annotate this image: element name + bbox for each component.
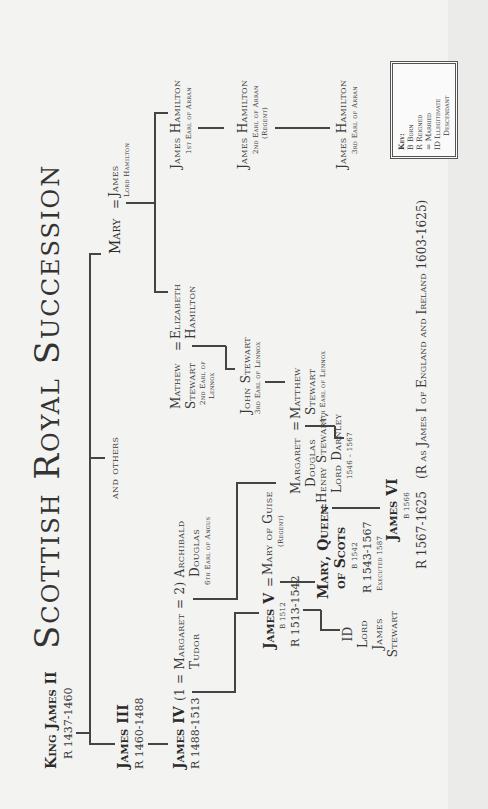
james-v-marriage-sign: = <box>264 577 276 587</box>
person-james-hamilton-2nd-earl: James Hamilton <box>237 80 249 169</box>
james-v-reign: R 1513-1542 <box>290 576 301 647</box>
person-james-ii: King James II <box>44 671 58 769</box>
elizabeth-hamilton-line2: Hamilton <box>185 285 197 339</box>
lord-james-stewart-line4: Stewart <box>387 609 399 659</box>
margaret-tudor-line2: Tudor <box>189 634 201 669</box>
key-illegitimate: ID Illegitimate <box>433 70 442 150</box>
connector <box>89 458 105 460</box>
person-mathew-stewart-2nd-earl: Mathew <box>170 363 182 409</box>
person-mary-queen-of-scots: Mary, Queen <box>316 506 330 599</box>
archibald-title: 6th Earl of Angus <box>205 517 212 585</box>
legend-key: Key: B Born R Reigned = Married ID Illeg… <box>390 61 458 159</box>
connector <box>89 744 115 746</box>
mary-of-guise-note: (Regent) <box>278 515 285 547</box>
connector <box>89 254 101 256</box>
mathew-marriage-sign: = <box>172 341 184 351</box>
key-label: Key: <box>397 70 406 150</box>
diagram-title: Scottish Royal Succession <box>30 164 64 649</box>
connector <box>154 113 168 115</box>
person-archibald-douglas: = 2) Archibald <box>174 520 186 609</box>
james-hamilton-2-note: (Regent) <box>262 107 269 139</box>
james-hamilton-3-title: 3rd Earl of Arran <box>352 86 359 154</box>
person-elizabeth-hamilton: Elizabeth <box>170 284 182 339</box>
person-lord-james-stewart: ID <box>342 609 354 659</box>
james-v-born: B 1512 <box>280 602 287 629</box>
connector <box>192 346 226 348</box>
james-lord-hamilton-title: Lord Hamilton <box>124 143 131 197</box>
person-john-stewart: John Stewart <box>240 337 252 414</box>
matthew-stewart-4-line2: Stewart <box>305 369 317 415</box>
james-ii-reign: R 1437-1460 <box>63 688 74 759</box>
person-james-lord-hamilton: James <box>108 165 120 197</box>
connector <box>280 582 315 584</box>
key-born: B Born <box>406 70 415 150</box>
connector <box>193 599 237 601</box>
connector <box>148 744 168 746</box>
connector <box>76 733 89 735</box>
darnley-dates: 1546 – 1567 <box>347 432 354 479</box>
trunk-line <box>89 254 91 745</box>
connector <box>154 113 156 293</box>
james-vi-born: B 1566 <box>404 492 411 519</box>
family-tree-diagram: Scottish Royal Succession Key: B Born R … <box>0 0 488 809</box>
person-james-hamilton-3rd-earl: James Hamilton <box>336 80 348 169</box>
connector <box>225 346 227 370</box>
james-iv-reign: R 1488-1513 <box>190 698 201 769</box>
connector <box>320 610 322 631</box>
connector <box>265 382 285 384</box>
john-stewart-title: 3rd Earl of Lennox <box>255 342 262 414</box>
connector <box>234 613 236 693</box>
connector <box>303 610 321 612</box>
connector <box>126 203 154 205</box>
person-mary: Mary <box>108 219 122 254</box>
mathew-stewart-line2: Stewart <box>185 363 197 409</box>
connector <box>275 128 330 130</box>
person-margaret-douglas: Margaret <box>290 438 302 494</box>
mary-queen-of-scots-note: Executed 1587 <box>377 536 384 591</box>
mathew-stewart-title2: Lennox <box>209 373 216 399</box>
james-iii-reign: R 1460-1488 <box>134 698 145 769</box>
mary-marriage-sign: = <box>110 199 122 209</box>
darnley-line2: Lord Darnley <box>331 414 343 493</box>
lord-james-stewart-line3: James <box>372 609 384 659</box>
connector <box>198 128 224 130</box>
person-matthew-stewart-4th-earl: Matthew <box>290 367 302 419</box>
lord-james-stewart-line2: Lord <box>357 609 369 659</box>
person-james-v: James V <box>262 593 276 649</box>
person-james-hamilton-1st-earl: James Hamilton <box>170 80 182 169</box>
mary-queen-of-scots-marriage-sign: = <box>318 503 330 513</box>
archibald-douglas-line2: Douglas <box>189 529 201 577</box>
connector <box>225 369 235 371</box>
mathew-stewart-title: 2nd Earl of <box>200 361 207 405</box>
mary-queen-of-scots-line2: of Scots <box>333 527 347 589</box>
connector <box>236 483 276 485</box>
james-iv-marriage-margaret-tudor: (1 = Margaret <box>174 614 186 701</box>
key-reigned: R Reigned <box>415 70 424 150</box>
person-henry-stewart-lord-darnley: Henry Stewart, <box>316 413 328 503</box>
mary-queen-of-scots-born: B 1542 <box>352 542 359 569</box>
margaret-douglas-marriage-sign: = <box>290 421 302 431</box>
key-descendant: Descendant <box>442 70 451 150</box>
connector <box>154 292 168 294</box>
james-hamilton-1-title: 1st Earl of Arran <box>186 87 193 154</box>
person-james-iv: James IV <box>172 706 186 769</box>
person-james-vi: James VI <box>385 478 399 541</box>
connector <box>236 483 238 600</box>
person-james-iii: James III <box>116 704 130 769</box>
connector <box>192 692 235 694</box>
connector <box>234 613 259 615</box>
james-vi-note: (R as James I of England and Ireland 160… <box>416 200 428 479</box>
key-married: = Married <box>424 70 433 150</box>
connector <box>332 508 380 510</box>
person-mary-of-guise: Mary of Guise <box>262 491 274 575</box>
person-and-others: and others <box>108 437 120 499</box>
mary-queen-of-scots-reign: R 1543-1567 <box>362 522 373 593</box>
james-hamilton-2-title: 2nd Earl of Arran <box>253 85 260 154</box>
connector <box>320 630 340 632</box>
james-vi-reign: R 1567-1625 <box>416 491 428 569</box>
